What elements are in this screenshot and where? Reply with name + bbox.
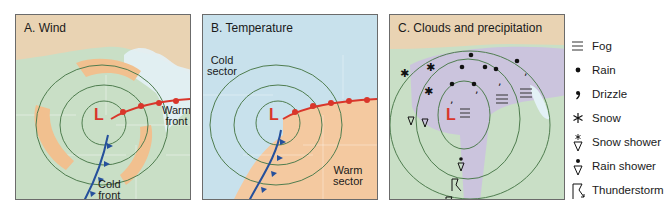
svg-text:,: ,: [450, 93, 454, 106]
legend-item-snow-shower: Snow shower: [570, 134, 667, 154]
svg-text:✱: ✱: [400, 67, 409, 80]
legend-label: Snow shower: [592, 136, 661, 148]
drizzle-icon: [570, 86, 586, 102]
legend-label: Thunderstorm: [592, 184, 664, 196]
precipitation-map: ✱✱✱ ,,,,: [390, 15, 565, 200]
warm-sector-label: Warm sector: [333, 165, 363, 187]
legend-item-snow: Snow: [570, 110, 667, 130]
cold-front-label: Cold front: [98, 179, 121, 200]
svg-text:,: ,: [498, 75, 502, 88]
cold-sector-label: Cold sector: [207, 55, 237, 77]
snow-icon: [570, 110, 586, 126]
svg-text:✱: ✱: [426, 61, 435, 74]
legend-label: Fog: [592, 40, 612, 52]
legend-item-rain-shower: Rain shower: [570, 158, 667, 178]
legend-label: Rain shower: [592, 160, 656, 172]
legend-item-drizzle: Drizzle: [570, 86, 667, 106]
panel-title: A. Wind: [24, 21, 66, 35]
panel-clouds-precipitation: ✱✱✱ ,,,, C. Clouds and precipitation L: [389, 14, 565, 200]
low-pressure-marker: L: [269, 109, 279, 120]
panel-temperature: B. Temperature L Cold sector Warm sector: [202, 14, 378, 200]
legend-label: Snow: [592, 112, 621, 124]
panel-title: C. Clouds and precipitation: [398, 21, 542, 35]
warm-front-label: Warm front: [162, 105, 191, 127]
panel-title: B. Temperature: [211, 21, 293, 35]
svg-text:,: ,: [475, 83, 479, 96]
legend-item-fog: Fog: [570, 38, 667, 58]
legend-item-thunderstorm: Thunderstorm: [570, 182, 667, 202]
fog-icon: [570, 38, 586, 54]
svg-text:,: ,: [524, 65, 528, 78]
thunderstorm-icon: [570, 182, 586, 202]
low-pressure-marker: L: [446, 109, 456, 120]
panel-wind: A. Wind L Warm front Cold front: [15, 14, 191, 200]
svg-text:✱: ✱: [424, 85, 433, 98]
snow-shower-icon: [570, 134, 586, 154]
legend-label: Drizzle: [592, 88, 627, 100]
rain-icon: [570, 62, 586, 78]
low-pressure-marker: L: [94, 109, 104, 120]
legend-label: Rain: [592, 64, 616, 76]
legend-item-rain: Rain: [570, 62, 667, 82]
rain-shower-icon: [570, 158, 586, 178]
